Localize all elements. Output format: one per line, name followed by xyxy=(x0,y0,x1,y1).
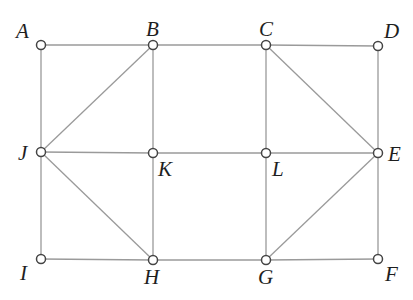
node-label-a: A xyxy=(14,19,29,43)
graph-diagram: ABCDEFGHIJKL xyxy=(0,0,413,300)
node-j xyxy=(37,148,46,157)
node-c xyxy=(262,41,271,50)
node-i xyxy=(37,255,46,264)
node-b xyxy=(149,41,158,50)
node-l xyxy=(262,149,271,158)
node-a xyxy=(37,41,46,50)
edge-layer xyxy=(41,45,378,260)
node-label-i: I xyxy=(19,261,28,285)
edge-g-f xyxy=(266,259,378,260)
node-label-h: H xyxy=(143,265,161,289)
node-label-d: D xyxy=(383,19,399,43)
edge-c-e xyxy=(266,45,378,153)
edge-i-h xyxy=(41,259,153,260)
edge-j-h xyxy=(41,152,153,260)
node-label-l: L xyxy=(271,157,284,181)
edge-j-k xyxy=(41,152,153,153)
node-label-g: G xyxy=(258,265,273,289)
node-f xyxy=(374,255,383,264)
node-g xyxy=(262,256,271,265)
node-label-f: F xyxy=(384,262,398,286)
edge-b-j xyxy=(41,45,153,152)
edge-c-d xyxy=(266,45,378,46)
node-e xyxy=(374,149,383,158)
node-label-k: K xyxy=(157,157,173,181)
node-h xyxy=(149,256,158,265)
node-label-j: J xyxy=(18,141,29,165)
node-label-e: E xyxy=(387,142,401,166)
node-d xyxy=(374,42,383,51)
node-k xyxy=(149,149,158,158)
node-label-b: B xyxy=(146,17,159,41)
node-label-c: C xyxy=(259,17,274,41)
